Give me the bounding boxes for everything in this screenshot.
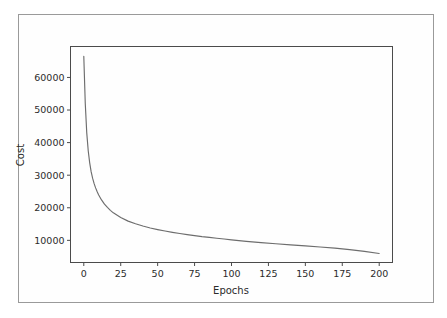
x-tick-label: 0 bbox=[81, 268, 87, 279]
x-axis-ticks: 0255075100125150175200 bbox=[81, 263, 389, 279]
y-axis-ticks: 100002000030000400005000060000 bbox=[34, 72, 70, 246]
x-tick-label: 75 bbox=[189, 268, 201, 279]
x-tick-label: 25 bbox=[115, 268, 127, 279]
axes-spines bbox=[71, 47, 393, 263]
y-tick-label: 60000 bbox=[34, 72, 64, 83]
y-tick-label: 20000 bbox=[34, 202, 64, 213]
y-tick-label: 30000 bbox=[34, 170, 64, 181]
x-axis-label: Epochs bbox=[213, 285, 249, 296]
x-tick-label: 200 bbox=[370, 268, 388, 279]
cost-curve bbox=[84, 56, 379, 253]
x-tick-label: 175 bbox=[333, 268, 351, 279]
cost-vs-epochs-line-chart: 0255075100125150175200 10000200003000040… bbox=[0, 0, 447, 318]
y-tick-label: 10000 bbox=[34, 235, 64, 246]
x-tick-label: 150 bbox=[296, 268, 314, 279]
x-tick-label: 100 bbox=[222, 268, 240, 279]
chart-figure: 0255075100125150175200 10000200003000040… bbox=[0, 0, 447, 318]
x-tick-label: 125 bbox=[259, 268, 277, 279]
y-tick-label: 40000 bbox=[34, 137, 64, 148]
y-tick-label: 50000 bbox=[34, 104, 64, 115]
screenshot-root: 0255075100125150175200 10000200003000040… bbox=[0, 0, 447, 318]
y-axis-label: Cost bbox=[15, 144, 26, 166]
x-tick-label: 50 bbox=[152, 268, 164, 279]
